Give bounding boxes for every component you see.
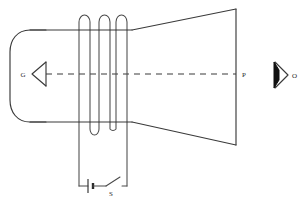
label-switch: S (109, 190, 113, 198)
label-gun: G (20, 71, 25, 79)
deflecting-coil (79, 15, 127, 186)
cathode-ray-tube-envelope (10, 9, 236, 145)
coil-top-arc-3 (116, 15, 127, 30)
open-switch-blade (106, 177, 120, 186)
electron-gun-arrowhead (32, 62, 46, 86)
label-observer: O (292, 72, 297, 80)
coil-top-arc-2 (99, 15, 110, 30)
crt-schematic-svg: G P O S (0, 0, 307, 205)
gun-chevron (32, 62, 46, 86)
label-screen-point: P (242, 71, 246, 79)
tube-top-cone (132, 9, 236, 30)
coil-bottom-arc-1 (90, 122, 99, 135)
battery-switch-circuit (79, 177, 127, 193)
tube-bottom-cone (132, 122, 236, 145)
crt-diagram-canvas: G P O S (0, 0, 307, 205)
tube-left-dome (10, 30, 46, 122)
observer-eye (274, 62, 288, 88)
coil-bottom-arc-2 (110, 122, 116, 131)
coil-top-arc-1 (79, 15, 90, 30)
